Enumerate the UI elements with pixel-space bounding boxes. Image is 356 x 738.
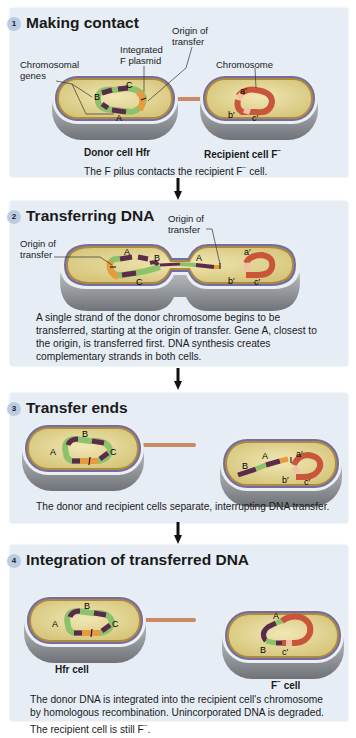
step-2-panel: 2 Transferring DNA Origin of transfer Or… (10, 201, 348, 366)
gene-label: C (110, 447, 117, 457)
gene-label: c′ (304, 477, 311, 487)
gene-label: c′ (252, 113, 259, 123)
step-3-panel: 3 Transfer ends A B C B A a′ (10, 393, 348, 523)
step-4-panel: 4 Integration of transferred DNA A B C A (10, 545, 348, 721)
gene-label: B (82, 429, 88, 439)
gene-label: b′ (228, 276, 235, 286)
step-1-illustration: B C A a′ b′ c′ (10, 8, 348, 177)
gene-label: b′ (228, 110, 235, 120)
gene-label: A (52, 619, 58, 629)
gene-label: A (262, 451, 268, 461)
gene-label: A (50, 447, 56, 457)
gene-label: c′ (282, 647, 289, 657)
gene-label: B (260, 645, 266, 655)
step-caption: A single strand of the donor chromosome … (36, 311, 326, 363)
gene-label: A (116, 113, 122, 123)
gene-label: b′ (282, 475, 289, 485)
step-1-panel: 1 Making contact Chromosomal genes Integ… (10, 8, 348, 177)
gene-label: a′ (296, 449, 303, 459)
gene-label: A (124, 247, 130, 257)
arrow-down-icon (174, 178, 182, 200)
f-minus-cell-label: F− cell (271, 678, 300, 691)
arrow-down-icon (174, 368, 182, 390)
arrow-down-icon (174, 522, 182, 544)
step-caption: The donor and recipient cells separate, … (36, 500, 329, 513)
gene-label: c′ (254, 277, 261, 287)
recipient-cell-label: Recipient cell F− (204, 147, 281, 160)
donor-cell-label: Donor cell Hfr (84, 147, 150, 158)
gene-label: C (126, 80, 133, 90)
gene-label: A (196, 253, 202, 263)
step-caption: The donor DNA is integrated into the rec… (30, 693, 336, 736)
gene-label: C (136, 277, 143, 287)
hfr-cell-label: Hfr cell (55, 664, 89, 675)
gene-label: B (84, 601, 90, 611)
gene-label: B (154, 253, 160, 263)
gene-label: a′ (244, 247, 251, 257)
step-caption: The F pilus contacts the recipient F− ce… (84, 161, 267, 178)
gene-label: B (94, 92, 100, 102)
gene-label: A (273, 611, 279, 621)
gene-label: B (242, 461, 248, 471)
gene-label: a′ (240, 86, 247, 96)
gene-label: C (112, 619, 119, 629)
